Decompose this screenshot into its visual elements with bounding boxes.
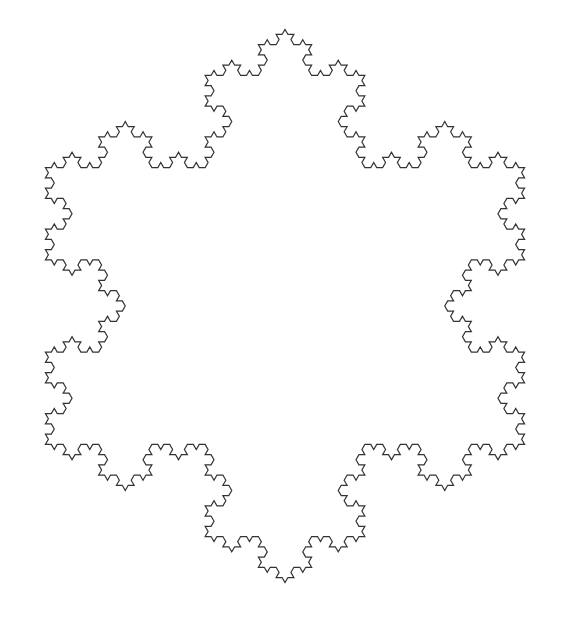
koch-snowflake-outline [45, 29, 524, 582]
koch-snowflake-canvas [0, 0, 565, 624]
